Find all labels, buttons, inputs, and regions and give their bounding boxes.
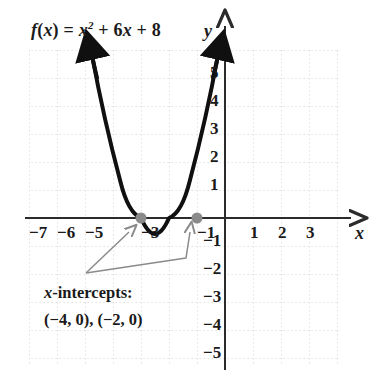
y-axis-label: y [204, 22, 212, 40]
term-x-base: x [79, 20, 88, 40]
x-intercepts-annotation-title: x-intercepts: [44, 285, 133, 302]
x-intercepts-annotation-values: (−4, 0), (−2, 0) [44, 312, 143, 329]
y-tick-label-3: 3 [210, 120, 219, 137]
y-tick-label-4: 4 [210, 92, 219, 109]
function-argument: x [43, 20, 52, 40]
x-intercepts-annotation-variable: x [44, 283, 52, 302]
x-tick-label-neg6: −6 [57, 224, 75, 241]
x-axis-label: x [355, 224, 364, 242]
function-equation-label: f(x) = x2 + 6x + 8 [31, 20, 161, 39]
y-tick-label-1: 1 [210, 176, 219, 193]
y-tick-label-neg2: −2 [203, 260, 221, 277]
x-intercept-point-minus4 [136, 213, 147, 224]
term-linear-variable: x [123, 20, 132, 40]
x-tick-label-1: 1 [250, 224, 259, 241]
y-tick-label-neg3: −3 [203, 288, 221, 305]
x-tick-label-3: 3 [306, 224, 315, 241]
function-equals: = [59, 20, 79, 40]
y-tick-label-neg5: −5 [203, 344, 221, 361]
x-tick-label-neg3: −3 [141, 224, 159, 241]
quadratic-graph-figure: f(x) = x2 + 6x + 8 y x −7 −6 −5 −3 −1 1 … [0, 0, 383, 388]
y-tick-label-2: 2 [210, 148, 219, 165]
x-tick-label-2: 2 [278, 224, 287, 241]
y-tick-label-5: 5 [210, 64, 219, 81]
term-linear-coefficient: + 6 [94, 20, 123, 40]
y-tick-label-neg1: −1 [203, 232, 221, 249]
plot-canvas [0, 0, 383, 388]
term-constant: + 8 [132, 20, 161, 40]
y-tick-label-neg4: −4 [203, 316, 221, 333]
x-intercept-point-minus2 [192, 213, 203, 224]
x-tick-label-neg5: −5 [85, 224, 103, 241]
x-tick-label-neg7: −7 [29, 224, 47, 241]
x-intercepts-annotation-word: -intercepts: [52, 283, 132, 302]
